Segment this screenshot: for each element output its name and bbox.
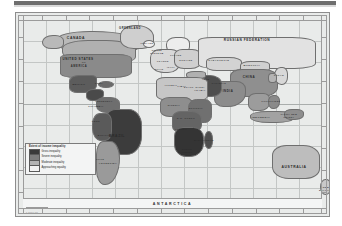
graticule-tick [18, 103, 23, 104]
graticule-tick [66, 15, 67, 20]
map-neatline [18, 15, 327, 214]
legend-entries: Gross inequalitySevere inequalityModerat… [29, 150, 93, 171]
graticule-tick [322, 148, 327, 149]
graticule-tick [256, 15, 257, 20]
graticule-tick [42, 15, 43, 20]
graticule-tick [279, 15, 280, 20]
tick-band-right [321, 15, 327, 214]
graticule-tick [322, 192, 327, 193]
graticule-tick [18, 170, 23, 171]
graticule-tick [89, 209, 90, 214]
graticule-tick [184, 209, 185, 214]
graticule-tick [18, 37, 23, 38]
legend-entry-label: Approaching equality [42, 167, 66, 170]
graticule-tick [137, 15, 138, 20]
graticule-tick [161, 15, 162, 20]
graticule-tick [322, 81, 327, 82]
legend-entry[interactable]: Approaching equality [29, 166, 93, 170]
antarctica-label: ANTARCTICA [16, 202, 329, 206]
screenshot-root: CANADAUNITED STATESOFAMERICAGREENLANDICE… [0, 0, 342, 226]
tick-band-left [18, 15, 24, 214]
graticule-tick [66, 209, 67, 214]
graticule-tick [208, 209, 209, 214]
world-map[interactable]: CANADAUNITED STATESOFAMERICAGREENLANDICE… [15, 12, 330, 217]
legend-swatch [29, 165, 40, 171]
graticule-tick [303, 209, 304, 214]
graticule-tick [232, 15, 233, 20]
graticule-tick [208, 15, 209, 20]
legend-entry-label: Severe inequality [42, 156, 62, 159]
graticule-tick [18, 126, 23, 127]
graticule-tick [161, 209, 162, 214]
window-toolbar-shadow [14, 5, 336, 7]
graticule-tick [322, 59, 327, 60]
graticule-tick [18, 59, 23, 60]
graticule-tick [18, 81, 23, 82]
graticule-tick [184, 15, 185, 20]
scale-bar [26, 207, 48, 209]
tick-band-bottom [18, 208, 327, 214]
scale-credit-text: 0 2000 km [26, 211, 38, 213]
graticule-tick [256, 209, 257, 214]
graticule-tick [42, 209, 43, 214]
graticule-tick [232, 209, 233, 214]
graticule-tick [89, 15, 90, 20]
map-legend[interactable]: Extent of income inequality Gross inequa… [25, 143, 96, 175]
graticule-tick [113, 15, 114, 20]
graticule-tick [137, 209, 138, 214]
graticule-tick [322, 170, 327, 171]
legend-entry-label: Gross inequality [42, 151, 61, 154]
graticule-tick [322, 126, 327, 127]
graticule-tick [279, 209, 280, 214]
graticule-tick [322, 103, 327, 104]
tick-band-top [18, 15, 327, 21]
graticule-tick [322, 37, 327, 38]
legend-entry-label: Moderate inequality [42, 162, 65, 165]
graticule-tick [18, 148, 23, 149]
graticule-tick [303, 15, 304, 20]
graticule-tick [113, 209, 114, 214]
graticule-tick [18, 192, 23, 193]
